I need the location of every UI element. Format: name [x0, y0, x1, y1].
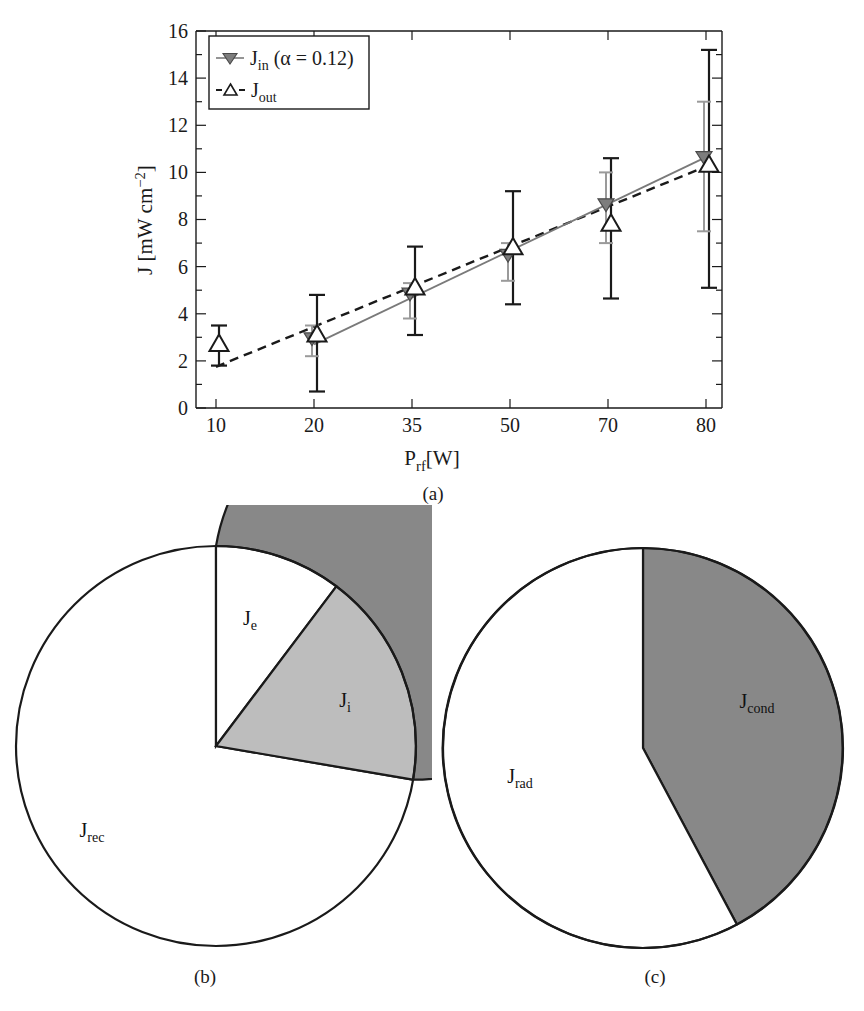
x-tick-label: 35 [402, 414, 422, 436]
line-chart-svg: 0 2 4 6 8 10 12 14 16 [0, 0, 864, 510]
y-tick-label: 4 [178, 303, 188, 325]
x-tick-label: 10 [206, 414, 226, 436]
svg-text:J [mW cm−2]: J [mW cm−2] [132, 165, 157, 275]
pie-label-je-base: J [243, 607, 251, 629]
y-tick-label: 10 [168, 161, 188, 183]
y-axis-tick-labels: 0 2 4 6 8 10 12 14 16 [168, 20, 188, 419]
x-tick-label: 20 [304, 414, 324, 436]
y-tick-label: 8 [178, 208, 188, 230]
svg-text:Prf[W]: Prf[W] [404, 446, 459, 474]
panel-b-pie-chart: Je Ji Jrec [0, 505, 432, 1011]
legend-label-jout-sub: out [259, 90, 277, 105]
marker-jout-70 [602, 214, 621, 230]
chart-legend[interactable]: Jin (α = 0.12) Jout [209, 36, 369, 109]
y-tick-label: 12 [168, 114, 188, 136]
series-jin-errorbars [305, 102, 711, 357]
x-axis-title: Prf[W] [404, 446, 459, 474]
pie-label-jrec-base: J [80, 819, 88, 841]
marker-jout-10 [210, 335, 229, 351]
x-axis-title-unit: [W] [426, 446, 460, 470]
pie-b-svg: Je Ji Jrec [0, 505, 432, 1011]
pie-label-ji-sub: i [347, 700, 351, 715]
y-tick-label: 0 [178, 397, 188, 419]
legend-label-jin-tail: (α = 0.12) [269, 47, 354, 70]
pie-label-jrec: Jrec [80, 819, 105, 845]
y-tick-label: 14 [168, 67, 188, 89]
figure-root: 0 2 4 6 8 10 12 14 16 [0, 0, 864, 1011]
y-axis-title: J [mW cm−2] [132, 165, 157, 275]
y-axis-title-base: J [mW cm [133, 188, 157, 275]
legend-label-jin-base: J [250, 47, 258, 69]
pie-label-ji-base: J [339, 689, 347, 711]
x-axis-tick-labels: 10 20 35 50 70 80 [206, 414, 716, 436]
x-tick-label: 80 [696, 414, 716, 436]
pie-c-svg: Jcond Jrad [432, 505, 864, 1011]
y-tick-label: 2 [178, 350, 188, 372]
caption-b: (b) [175, 966, 235, 988]
y-axis-title-close: ] [133, 165, 157, 172]
x-tick-label: 50 [500, 414, 520, 436]
series-jout-markers [210, 155, 719, 351]
pie-label-je-sub: e [251, 618, 257, 633]
pie-label-jrad-sub: rad [515, 776, 533, 791]
panel-a-line-chart: 0 2 4 6 8 10 12 14 16 [0, 0, 864, 510]
fit-line-jout [216, 167, 706, 367]
pie-label-jrad-base: J [507, 765, 515, 787]
fit-lines [216, 157, 706, 367]
legend-label-jout-base: J [251, 79, 259, 101]
pie-label-jcond-sub: cond [747, 701, 774, 716]
legend-label-jin-sub: in [258, 58, 269, 73]
caption-c: (c) [625, 966, 685, 988]
marker-jout-35 [406, 278, 425, 294]
y-tick-label: 6 [178, 256, 188, 278]
panel-c-pie-chart: Jcond Jrad [432, 505, 864, 1011]
pie-label-jcond-base: J [739, 690, 747, 712]
pie-label-jrec-sub: rec [87, 830, 104, 845]
x-axis-title-base: P [404, 446, 416, 470]
caption-a: (a) [403, 483, 463, 505]
y-tick-label: 16 [168, 20, 188, 42]
x-axis-title-sub: rf [416, 458, 426, 474]
x-tick-label: 70 [598, 414, 618, 436]
y-axis-title-sup: −2 [132, 172, 148, 188]
